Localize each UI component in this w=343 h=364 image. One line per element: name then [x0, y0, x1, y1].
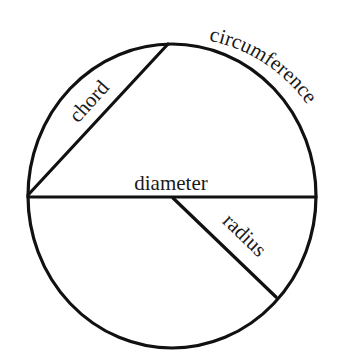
circumference-label: circumference — [208, 22, 323, 108]
circumference-label-path: circumference — [208, 22, 323, 108]
circle-parts-diagram: circumference chord diameter radius — [0, 0, 343, 364]
radius-label: radius — [218, 209, 272, 262]
diameter-label: diameter — [134, 171, 207, 195]
chord-label: chord — [64, 75, 114, 127]
